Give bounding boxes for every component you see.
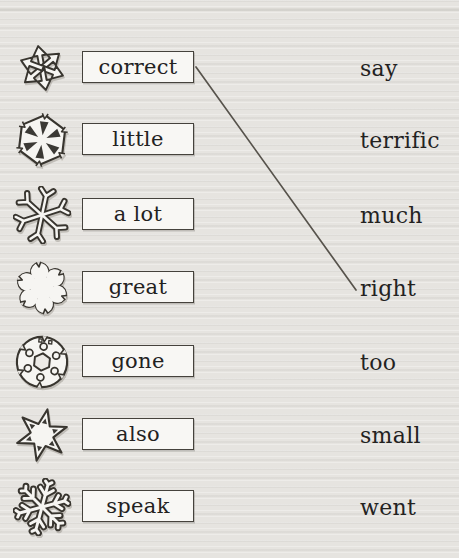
match-row: great right bbox=[0, 259, 459, 317]
branch-snowflake-icon bbox=[13, 478, 71, 536]
match-word[interactable]: went bbox=[360, 478, 416, 536]
match-word[interactable]: say bbox=[360, 39, 398, 97]
word-label: gone bbox=[111, 349, 164, 373]
word-label: also bbox=[116, 422, 160, 446]
word-box[interactable]: speak bbox=[82, 490, 194, 522]
word-box[interactable]: correct bbox=[82, 51, 194, 83]
match-row: a lot much bbox=[0, 186, 459, 244]
match-row: little terrific bbox=[0, 111, 459, 169]
word-box[interactable]: a lot bbox=[82, 198, 194, 230]
arrows-snowflake-icon bbox=[13, 39, 71, 97]
word-label: little bbox=[112, 127, 163, 151]
match-word[interactable]: right bbox=[360, 259, 416, 317]
match-word[interactable]: terrific bbox=[360, 111, 440, 169]
word-label: speak bbox=[106, 494, 169, 518]
ring-snowflake-icon bbox=[13, 333, 71, 391]
match-word[interactable]: small bbox=[360, 406, 421, 464]
word-box[interactable]: great bbox=[82, 271, 194, 303]
spiky-snowflake-icon bbox=[13, 186, 71, 244]
word-box[interactable]: little bbox=[82, 123, 194, 155]
match-row: gone too bbox=[0, 333, 459, 391]
match-word[interactable]: too bbox=[360, 333, 396, 391]
blob-snowflake-icon bbox=[13, 259, 71, 317]
match-row: speak went bbox=[0, 478, 459, 536]
match-word[interactable]: much bbox=[360, 186, 423, 244]
word-label: great bbox=[109, 275, 167, 299]
word-box[interactable]: also bbox=[82, 418, 194, 450]
word-label: correct bbox=[98, 55, 177, 79]
word-box[interactable]: gone bbox=[82, 345, 194, 377]
match-row: correct say bbox=[0, 39, 459, 97]
match-row: also small bbox=[0, 406, 459, 464]
scan-line-artifact bbox=[0, 8, 459, 11]
worksheet-page: { "worksheet": { "type": "vocabulary-mat… bbox=[0, 0, 459, 558]
wedge-snowflake-icon bbox=[13, 111, 71, 169]
star-snowflake-icon bbox=[13, 406, 71, 464]
word-label: a lot bbox=[114, 202, 163, 226]
